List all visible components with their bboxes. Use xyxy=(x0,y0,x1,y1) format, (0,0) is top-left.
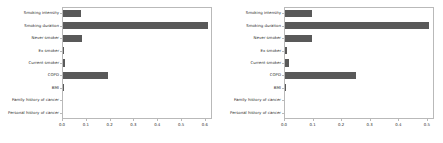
x-tick-mark xyxy=(205,119,206,121)
x-tick-mark xyxy=(110,119,111,121)
x-tick-mark xyxy=(62,119,63,121)
y-tick-mark xyxy=(282,88,284,89)
y-tick-mark xyxy=(60,51,62,52)
x-tick-label: 0.4 xyxy=(154,123,160,127)
x-tick-mark xyxy=(313,119,314,121)
x-tick-mark xyxy=(398,119,399,121)
x-tick-label: 0.1 xyxy=(309,123,315,127)
x-tick-label: 0.3 xyxy=(367,123,373,127)
y-tick-mark xyxy=(60,38,62,39)
x-tick-mark xyxy=(181,119,182,121)
x-tick-mark xyxy=(427,119,428,121)
y-tick-mark xyxy=(60,63,62,64)
x-tick-mark xyxy=(284,119,285,121)
x-tick-label: 0.5 xyxy=(424,123,430,127)
y-tick-mark xyxy=(60,13,62,14)
chart-panel-left-inner: Smoking intensitySmoking durationNever s… xyxy=(0,0,221,143)
x-tick-label: 0.2 xyxy=(107,123,113,127)
x-tick-label: 0.4 xyxy=(395,123,401,127)
x-tick-label: 0.0 xyxy=(59,123,65,127)
x-axis-ticks-left: 0.00.10.20.30.40.50.6 xyxy=(0,0,221,143)
x-tick-mark xyxy=(133,119,134,121)
chart-panel-left: Smoking intensitySmoking durationNever s… xyxy=(0,0,221,143)
y-tick-mark xyxy=(282,26,284,27)
y-tick-mark xyxy=(282,75,284,76)
y-tick-mark xyxy=(282,13,284,14)
y-tick-mark xyxy=(60,100,62,101)
y-tick-mark xyxy=(60,113,62,114)
y-tick-mark xyxy=(282,51,284,52)
y-tick-mark xyxy=(60,75,62,76)
x-tick-mark xyxy=(341,119,342,121)
y-tick-mark xyxy=(282,63,284,64)
x-tick-label: 0.6 xyxy=(202,123,208,127)
figure-two-panel-bar-charts: Smoking intensitySmoking durationNever s… xyxy=(0,0,443,143)
y-tick-mark xyxy=(282,38,284,39)
y-tick-mark xyxy=(282,100,284,101)
chart-panel-right-inner: Smoking intensitySmoking durationNever s… xyxy=(221,0,442,143)
y-tick-mark xyxy=(60,88,62,89)
y-tick-mark xyxy=(60,26,62,27)
x-tick-mark xyxy=(157,119,158,121)
x-tick-label: 0.5 xyxy=(178,123,184,127)
x-tick-label: 0.3 xyxy=(130,123,136,127)
x-tick-mark xyxy=(370,119,371,121)
x-axis-ticks-right: 0.00.10.20.30.40.5 xyxy=(221,0,442,143)
x-tick-label: 0.1 xyxy=(83,123,89,127)
x-tick-mark xyxy=(86,119,87,121)
x-tick-label: 0.2 xyxy=(338,123,344,127)
chart-panel-right: Smoking intensitySmoking durationNever s… xyxy=(221,0,442,143)
y-tick-mark xyxy=(282,113,284,114)
x-tick-label: 0.0 xyxy=(281,123,287,127)
